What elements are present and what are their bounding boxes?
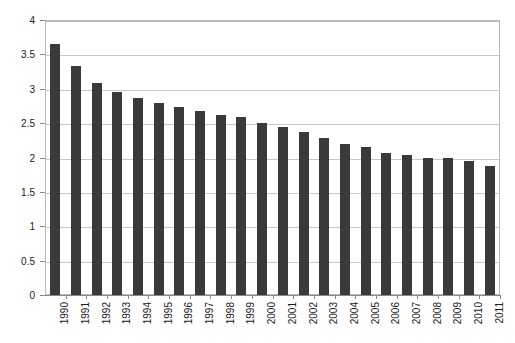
x-tick-label: 2006 [390, 302, 401, 324]
bar-slot [210, 20, 231, 295]
x-tick-label: 1993 [121, 302, 132, 324]
x-tick-mark [335, 295, 336, 299]
bar-slot [355, 20, 376, 295]
y-tick-label: 2.5 [21, 118, 35, 129]
x-tick-label: 2009 [452, 302, 463, 324]
bar-slot [107, 20, 128, 295]
x-tick-label: 1990 [59, 302, 70, 324]
x-tick-mark [376, 295, 377, 299]
bar[interactable] [319, 138, 329, 295]
bar-slot [231, 20, 252, 295]
y-tick-label: 4 [29, 15, 35, 26]
y-tick-label: 0 [29, 290, 35, 301]
bar[interactable] [71, 66, 81, 295]
x-tick-mark [459, 295, 460, 299]
x-tick-mark [210, 295, 211, 299]
x-tick-label: 2010 [473, 302, 484, 324]
x-tick-label: 1999 [245, 302, 256, 324]
bar-slot [148, 20, 169, 295]
bar-slot [479, 20, 500, 295]
y-tick-label: 1 [29, 221, 35, 232]
bar[interactable] [133, 98, 143, 295]
x-tick-mark [231, 295, 232, 299]
bar[interactable] [278, 127, 288, 295]
x-tick-label: 1992 [101, 302, 112, 324]
x-tick-mark [355, 295, 356, 299]
bar-slot [169, 20, 190, 295]
x-tick-mark [438, 295, 439, 299]
bar-chart: 00.511.522.533.54 1990199119921993199419… [0, 0, 515, 343]
x-tick-label: 2011 [494, 302, 505, 324]
bar[interactable] [361, 147, 371, 295]
x-tick-label: 2002 [308, 302, 319, 324]
bar[interactable] [381, 153, 391, 295]
x-tick-mark [273, 295, 274, 299]
y-tick-label: 3 [29, 83, 35, 94]
y-tick-label: 3.5 [21, 49, 35, 60]
bar[interactable] [92, 83, 102, 295]
bar-slot [293, 20, 314, 295]
bar[interactable] [340, 144, 350, 295]
bar-slot [252, 20, 273, 295]
bar[interactable] [485, 166, 495, 295]
x-tick-mark [66, 295, 67, 299]
x-tick-label: 1997 [204, 302, 215, 324]
bar-slot [128, 20, 149, 295]
x-tick-label: 2007 [411, 302, 422, 324]
x-tick-label: 2000 [266, 302, 277, 324]
bar[interactable] [423, 158, 433, 296]
x-tick-label: 2001 [287, 302, 298, 324]
bar[interactable] [402, 155, 412, 295]
bar[interactable] [216, 115, 226, 295]
x-axis: 1990199119921993199419951996199719981999… [45, 295, 500, 343]
x-tick-mark [293, 295, 294, 299]
bar-slot [86, 20, 107, 295]
x-tick-label: 1994 [142, 302, 153, 324]
bar[interactable] [257, 123, 267, 295]
x-tick-label: 2008 [432, 302, 443, 324]
x-tick-mark [397, 295, 398, 299]
bar-slot [314, 20, 335, 295]
bar-slot [66, 20, 87, 295]
x-tick-mark [86, 295, 87, 299]
x-tick-mark [169, 295, 170, 299]
x-tick-mark [252, 295, 253, 299]
bar-slot [397, 20, 418, 295]
bar[interactable] [195, 111, 205, 295]
y-axis: 00.511.522.533.54 [0, 0, 45, 343]
bar-slot [45, 20, 66, 295]
bar[interactable] [464, 161, 474, 295]
x-tick-label: 1998 [225, 302, 236, 324]
x-tick-mark [500, 295, 501, 299]
bar-slot [190, 20, 211, 295]
x-tick-mark [128, 295, 129, 299]
bars-layer [45, 20, 500, 295]
x-tick-mark [107, 295, 108, 299]
bar-slot [335, 20, 356, 295]
y-tick-label: 1.5 [21, 186, 35, 197]
x-tick-mark [148, 295, 149, 299]
bar-slot [417, 20, 438, 295]
x-tick-label: 2004 [349, 302, 360, 324]
y-tick-label: 0.5 [21, 255, 35, 266]
x-tick-label: 1995 [163, 302, 174, 324]
bar[interactable] [443, 158, 453, 295]
bar[interactable] [50, 44, 60, 295]
x-tick-mark [479, 295, 480, 299]
y-tick-label: 2 [29, 152, 35, 163]
bar[interactable] [154, 103, 164, 296]
bar-slot [438, 20, 459, 295]
x-tick-mark [314, 295, 315, 299]
x-tick-label: 2003 [328, 302, 339, 324]
x-tick-mark [190, 295, 191, 299]
x-tick-mark [417, 295, 418, 299]
bar[interactable] [174, 107, 184, 295]
x-tick-label: 1996 [183, 302, 194, 324]
bar[interactable] [236, 117, 246, 295]
bar-slot [273, 20, 294, 295]
x-tick-label: 1991 [80, 302, 91, 324]
bar[interactable] [112, 92, 122, 295]
bar[interactable] [299, 132, 309, 295]
bar-slot [459, 20, 480, 295]
bar-slot [376, 20, 397, 295]
